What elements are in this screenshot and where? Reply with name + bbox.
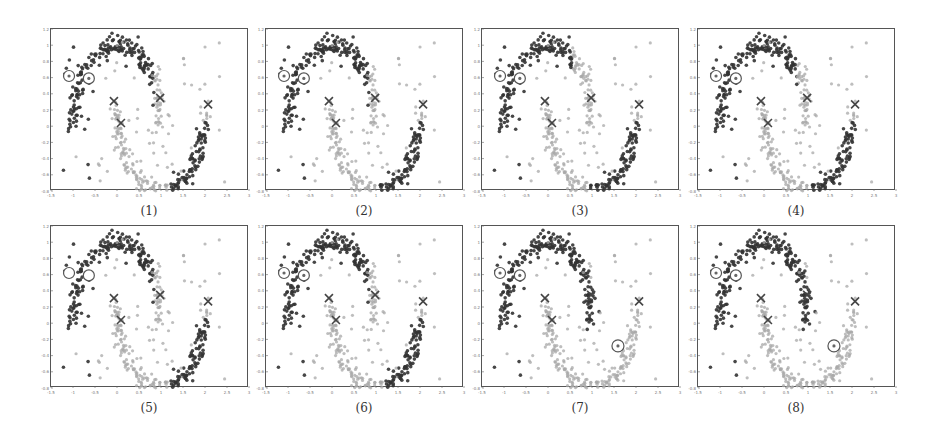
svg-text:3: 3 (679, 390, 682, 395)
svg-text:-0.5: -0.5 (91, 390, 99, 395)
svg-text:0.4: 0.4 (43, 288, 50, 293)
svg-text:-0.2: -0.2 (256, 337, 264, 342)
svg-text:1.2: 1.2 (474, 224, 481, 229)
svg-text:1: 1 (160, 390, 163, 395)
svg-text:0: 0 (547, 193, 550, 198)
panel-caption: (2) (334, 204, 394, 218)
svg-text:2: 2 (635, 193, 638, 198)
svg-text:2: 2 (635, 390, 638, 395)
svg-text:-0.6: -0.6 (256, 172, 264, 177)
svg-text:2: 2 (851, 390, 854, 395)
plot-area: -1.5-1-0.500.511.522.531.210.80.60.40.20… (697, 28, 895, 190)
panel-caption: (8) (766, 401, 826, 415)
plot-area: -1.5-1-0.500.511.522.531.210.80.60.40.20… (697, 225, 895, 387)
svg-text:0: 0 (116, 390, 119, 395)
cross-marker (325, 294, 333, 302)
svg-text:0.4: 0.4 (474, 91, 481, 96)
plot-area: -1.5-1-0.500.511.522.531.210.80.60.40.20… (50, 28, 248, 190)
svg-text:0.2: 0.2 (474, 305, 481, 310)
svg-text:0.2: 0.2 (258, 305, 265, 310)
svg-text:-0.5: -0.5 (522, 193, 530, 198)
svg-text:0.2: 0.2 (690, 108, 697, 113)
svg-text:2.5: 2.5 (871, 390, 878, 395)
svg-text:0.8: 0.8 (690, 59, 697, 64)
svg-text:0.8: 0.8 (258, 59, 265, 64)
svg-text:0.4: 0.4 (43, 91, 50, 96)
svg-text:-1.5: -1.5 (478, 193, 486, 198)
svg-text:0.5: 0.5 (136, 193, 143, 198)
svg-text:-0.2: -0.2 (688, 140, 696, 145)
svg-text:-0.8: -0.8 (41, 189, 49, 194)
svg-text:0.5: 0.5 (351, 193, 358, 198)
svg-text:-0.2: -0.2 (256, 140, 264, 145)
svg-text:1.2: 1.2 (474, 27, 481, 32)
svg-text:-0.8: -0.8 (256, 189, 264, 194)
panel-caption: (3) (550, 204, 610, 218)
cross-marker (110, 294, 118, 302)
svg-text:-1: -1 (502, 193, 506, 198)
svg-text:0: 0 (477, 321, 480, 326)
svg-text:1: 1 (807, 193, 810, 198)
svg-text:3: 3 (248, 390, 251, 395)
svg-text:1.5: 1.5 (395, 193, 402, 198)
svg-text:1.2: 1.2 (258, 27, 265, 32)
svg-text:1: 1 (46, 240, 49, 245)
svg-text:0: 0 (763, 193, 766, 198)
svg-text:3: 3 (248, 193, 251, 198)
svg-text:1: 1 (477, 240, 480, 245)
svg-text:0.6: 0.6 (43, 272, 50, 277)
svg-text:0.2: 0.2 (690, 305, 697, 310)
svg-text:-0.4: -0.4 (472, 353, 480, 358)
svg-text:2.5: 2.5 (439, 390, 446, 395)
svg-text:2: 2 (419, 390, 422, 395)
cross-marker (325, 97, 333, 105)
svg-text:0.4: 0.4 (690, 91, 697, 96)
svg-text:-1: -1 (718, 193, 722, 198)
svg-text:-0.4: -0.4 (41, 156, 49, 161)
svg-text:0.6: 0.6 (690, 272, 697, 277)
cross-marker (541, 294, 549, 302)
svg-text:1: 1 (693, 43, 696, 48)
svg-text:2.5: 2.5 (224, 193, 231, 198)
svg-text:0.6: 0.6 (258, 272, 265, 277)
svg-text:0.2: 0.2 (258, 108, 265, 113)
svg-text:0.5: 0.5 (783, 390, 790, 395)
svg-text:0.4: 0.4 (258, 91, 265, 96)
svg-text:1: 1 (591, 390, 594, 395)
svg-text:0: 0 (477, 124, 480, 129)
svg-text:0.4: 0.4 (258, 288, 265, 293)
cross-marker (757, 294, 765, 302)
plot-area: -1.5-1-0.500.511.522.531.210.80.60.40.20… (50, 225, 248, 387)
svg-text:1: 1 (261, 240, 264, 245)
svg-text:-0.4: -0.4 (256, 156, 264, 161)
svg-text:0: 0 (547, 390, 550, 395)
svg-text:1.2: 1.2 (43, 27, 50, 32)
svg-text:-0.8: -0.8 (472, 189, 480, 194)
svg-text:0.8: 0.8 (258, 256, 265, 261)
svg-text:-0.8: -0.8 (688, 189, 696, 194)
svg-text:0.8: 0.8 (690, 256, 697, 261)
svg-text:0: 0 (693, 124, 696, 129)
svg-text:-0.8: -0.8 (472, 386, 480, 391)
svg-text:1: 1 (591, 193, 594, 198)
svg-text:-0.2: -0.2 (472, 140, 480, 145)
svg-text:0: 0 (46, 321, 49, 326)
svg-text:1.2: 1.2 (690, 224, 697, 229)
svg-text:0: 0 (261, 124, 264, 129)
svg-text:1: 1 (693, 240, 696, 245)
svg-text:0.8: 0.8 (43, 256, 50, 261)
svg-text:0.5: 0.5 (351, 390, 358, 395)
svg-text:-0.4: -0.4 (688, 353, 696, 358)
svg-text:-1.5: -1.5 (262, 193, 270, 198)
svg-text:-1.5: -1.5 (478, 390, 486, 395)
svg-text:-0.5: -0.5 (738, 193, 746, 198)
cross-marker (541, 97, 549, 105)
svg-text:0: 0 (763, 390, 766, 395)
cross-marker (110, 97, 118, 105)
svg-text:0.5: 0.5 (136, 390, 143, 395)
svg-text:1.5: 1.5 (827, 390, 834, 395)
svg-text:0: 0 (331, 390, 334, 395)
svg-text:0: 0 (331, 193, 334, 198)
plot-area: -1.5-1-0.500.511.522.531.210.80.60.40.20… (265, 28, 463, 190)
svg-text:0: 0 (693, 321, 696, 326)
